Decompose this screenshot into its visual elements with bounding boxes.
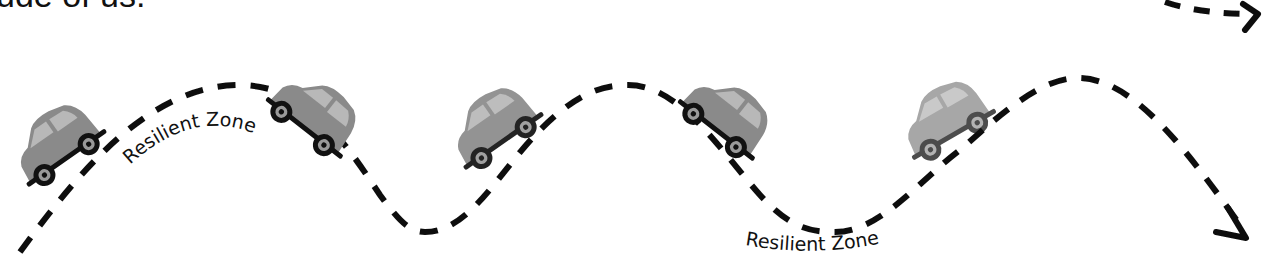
resilient-zone-label-1: Resilient Zone [118, 108, 259, 168]
car-icon-2 [259, 60, 373, 168]
resilience-wave-diagram: Resilient Zone Resilient Zone [0, 0, 1265, 280]
car-icon-4 [671, 62, 785, 170]
car-icon-1 [0, 90, 113, 195]
wave-path [20, 78, 1246, 252]
car-icon-5 [888, 68, 1002, 169]
car-icon-3 [436, 73, 550, 178]
arrow-fragment-top-right [1165, 2, 1258, 30]
